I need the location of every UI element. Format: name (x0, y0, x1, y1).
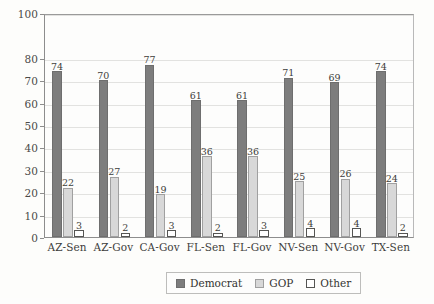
bar-group-nv-sen: 71254 (284, 15, 316, 237)
bar-nv-gov-democrat: 69 (330, 82, 340, 237)
bar-value-label: 24 (386, 174, 398, 184)
y-axis-label-0: 0 (8, 233, 38, 244)
y-axis-label-60: 60 (8, 99, 38, 110)
bar-fl-gov-democrat: 61 (237, 100, 247, 237)
legend-swatch-gop-icon (255, 279, 264, 288)
bar-value-label: 61 (190, 91, 202, 101)
y-axis-label-100: 100 (8, 9, 38, 20)
bar-group-nv-gov: 69264 (330, 15, 362, 237)
bar-az-sen-other: 3 (74, 230, 84, 237)
bar-nv-gov-other: 4 (352, 228, 362, 237)
bar-value-label: 25 (293, 172, 305, 182)
bar-chart-figure: 01020304050607080100 7422370272771936136… (0, 0, 434, 304)
y-axis-label-10: 10 (8, 211, 38, 222)
bar-nv-gov-gop: 26 (341, 179, 351, 237)
bar-value-label: 2 (400, 223, 406, 233)
chart-legend: DemocratGOPOther (166, 272, 361, 294)
y-axis-label-40: 40 (8, 143, 38, 154)
x-axis-label-nv-sen: NV-Sen (275, 241, 321, 254)
bar-group-fl-sen: 61362 (191, 15, 223, 237)
bar-value-label: 69 (328, 73, 340, 83)
y-axis-label-80: 80 (8, 54, 38, 65)
bar-group-fl-gov: 61363 (237, 15, 269, 237)
bar-nv-sen-gop: 25 (295, 181, 305, 237)
bar-value-label: 4 (354, 219, 360, 229)
plot-area: 7422370272771936136261363712546926474242 (44, 14, 414, 238)
x-axis-label-tx-sen: TX-Sen (368, 241, 414, 254)
legend-entry-other: Other (306, 278, 351, 289)
bar-value-label: 61 (236, 91, 248, 101)
y-axis-label-70: 70 (8, 76, 38, 87)
bar-az-sen-democrat: 74 (52, 71, 62, 237)
y-axis-tick-0 (40, 238, 44, 239)
scan-bottom-edge (0, 298, 434, 304)
legend-entry-gop: GOP (255, 278, 293, 289)
bar-value-label: 3 (76, 221, 82, 231)
bar-group-tx-sen: 74242 (376, 15, 408, 237)
y-axis-label-20: 20 (8, 188, 38, 199)
bar-az-gov-other: 2 (121, 233, 131, 237)
x-axis-label-ca-gov: CA-Gov (137, 241, 183, 254)
bar-fl-gov-gop: 36 (248, 156, 258, 237)
bar-value-label: 74 (51, 62, 63, 72)
bar-tx-sen-democrat: 74 (376, 71, 386, 237)
legend-label: Democrat (190, 278, 242, 289)
bar-value-label: 77 (143, 55, 155, 65)
bar-value-label: 36 (201, 147, 213, 157)
bar-value-label: 4 (307, 219, 313, 229)
x-axis-tick-labels: AZ-SenAZ-GovCA-GovFL-SenFL-GovNV-SenNV-G… (44, 241, 414, 257)
bar-value-label: 74 (375, 62, 387, 72)
bar-az-gov-gop: 27 (110, 177, 120, 237)
bar-fl-sen-other: 2 (213, 233, 223, 237)
bar-fl-sen-democrat: 61 (191, 100, 201, 237)
y-axis-label-30: 30 (8, 166, 38, 177)
legend-label: Other (320, 278, 351, 289)
y-axis-tick-labels: 01020304050607080100 (0, 14, 38, 238)
bar-ca-gov-gop: 19 (156, 194, 166, 237)
x-axis-label-fl-gov: FL-Gov (229, 241, 275, 254)
x-axis-label-fl-sen: FL-Sen (183, 241, 229, 254)
x-axis-label-nv-gov: NV-Gov (322, 241, 368, 254)
bar-fl-gov-other: 3 (259, 230, 269, 237)
bar-value-label: 70 (97, 71, 109, 81)
bar-value-label: 2 (215, 223, 221, 233)
bar-group-az-sen: 74223 (52, 15, 84, 237)
bar-group-az-gov: 70272 (99, 15, 131, 237)
bar-fl-sen-gop: 36 (202, 156, 212, 237)
bar-az-gov-democrat: 70 (99, 80, 109, 237)
bar-value-label: 2 (122, 223, 128, 233)
legend-swatch-other-icon (306, 279, 315, 288)
legend-swatch-democrat-icon (176, 279, 185, 288)
x-axis-label-az-sen: AZ-Sen (44, 241, 90, 254)
bar-value-label: 3 (169, 221, 175, 231)
bar-value-label: 27 (108, 167, 120, 177)
bar-ca-gov-other: 3 (167, 230, 177, 237)
legend-label: GOP (269, 278, 293, 289)
bar-value-label: 22 (62, 178, 74, 188)
legend-entry-democrat: Democrat (176, 278, 242, 289)
x-axis-label-az-gov: AZ-Gov (90, 241, 136, 254)
bar-tx-sen-gop: 24 (387, 183, 397, 237)
bar-nv-sen-other: 4 (306, 228, 316, 237)
bar-group-ca-gov: 77193 (145, 15, 177, 237)
bar-value-label: 19 (154, 185, 166, 195)
bar-value-label: 36 (247, 147, 259, 157)
bar-value-label: 3 (261, 221, 267, 231)
bar-ca-gov-democrat: 77 (145, 65, 155, 237)
bar-tx-sen-other: 2 (398, 233, 408, 237)
bar-value-label: 71 (282, 68, 294, 78)
bar-nv-sen-democrat: 71 (284, 78, 294, 237)
bar-az-sen-gop: 22 (63, 188, 73, 237)
bar-value-label: 26 (339, 169, 351, 179)
y-axis-label-50: 50 (8, 121, 38, 132)
